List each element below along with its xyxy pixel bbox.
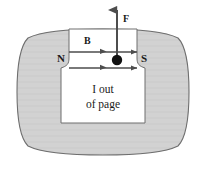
current-label-line1: I out xyxy=(92,83,113,95)
current-label-line2: of page xyxy=(70,99,136,111)
current-direction-label: I out of page xyxy=(70,84,136,110)
magnetic-field-label: B xyxy=(84,36,91,46)
force-label: F xyxy=(123,14,129,24)
south-pole-label: S xyxy=(141,53,147,64)
magnet-field-force-diagram: N S B F I out of page xyxy=(0,0,206,184)
current-carrying-wire-dot xyxy=(112,55,122,65)
north-pole-label: N xyxy=(57,53,65,64)
